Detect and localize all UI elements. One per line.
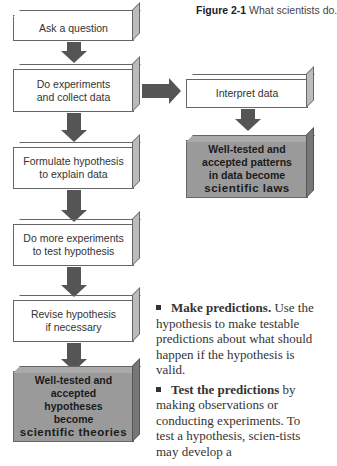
step-revise-hypothesis: Revise hypothesisif necessary bbox=[13, 300, 134, 342]
scientific-theories-box: Well-tested and accepted hypotheses beco… bbox=[13, 371, 134, 442]
arrow-down-3 bbox=[67, 190, 81, 212]
bullet-test-predictions: Test the predictions by making observati… bbox=[156, 382, 318, 460]
bullet-icon bbox=[156, 387, 161, 392]
step-ask-question: Ask a question bbox=[13, 15, 134, 41]
step-more-experiments: Do more experimentsto test hypothesis bbox=[13, 224, 134, 266]
arrow-right bbox=[142, 84, 170, 98]
bullet-icon bbox=[156, 305, 161, 310]
bullet-make-predictions: Make predictions. Use the hypothesis to … bbox=[156, 300, 318, 378]
step-do-experiments: Do experimentsand collect data bbox=[13, 69, 134, 112]
scientific-laws-box: Well-tested and accepted patterns in dat… bbox=[186, 140, 308, 198]
arrow-down-4 bbox=[67, 267, 81, 287]
figure-caption: Figure 2-1 What scientists do. bbox=[196, 4, 337, 16]
step-interpret-data: Interpret data bbox=[186, 79, 308, 108]
arrow-down-2 bbox=[67, 113, 81, 131]
step-formulate-hypothesis: Formulate hypothesisto explain data bbox=[13, 147, 134, 189]
body-text: Make predictions. Use the hypothesis to … bbox=[156, 300, 318, 463]
